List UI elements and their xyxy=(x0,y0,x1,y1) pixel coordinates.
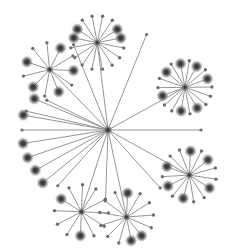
cluster-leaf-large xyxy=(122,187,134,198)
leaf-node xyxy=(20,128,23,131)
cluster-leaf xyxy=(202,196,205,199)
cluster-leaf xyxy=(31,47,34,50)
cluster-leaf xyxy=(81,18,84,21)
leaf-node xyxy=(45,99,48,102)
edge-cluster-leaf xyxy=(23,70,49,77)
cluster-leaf xyxy=(103,225,106,228)
cluster-leaf-large xyxy=(204,182,216,193)
cluster-leaf xyxy=(56,223,59,226)
cluster-leaf-large xyxy=(75,230,87,241)
cluster-leaf xyxy=(150,226,153,229)
cluster-leaf xyxy=(214,177,217,180)
cluster-leaf xyxy=(117,241,120,244)
cluster-leaf xyxy=(113,191,116,194)
edge-root-leaf xyxy=(26,111,108,130)
cluster-leaf xyxy=(156,86,159,89)
cluster-leaf xyxy=(200,149,203,152)
radial-tree-diagram xyxy=(0,0,234,248)
cluster-leaf xyxy=(71,54,74,57)
cluster-leaf xyxy=(122,46,125,49)
cluster-leaf xyxy=(118,56,121,59)
edge-root-leaf xyxy=(108,130,160,188)
edge-root-leaf xyxy=(108,35,147,130)
cluster-leaf xyxy=(53,209,56,212)
cluster-leaf xyxy=(161,175,164,178)
cluster-leaf-large xyxy=(191,102,203,113)
cluster-leaf xyxy=(70,83,73,86)
cluster-leaf xyxy=(43,94,46,97)
edge-root-leaf xyxy=(47,100,108,130)
cluster-leaf-large xyxy=(177,193,189,204)
cluster-leaf xyxy=(90,67,93,70)
cluster-leaf xyxy=(170,109,173,112)
edge-cluster-leaf xyxy=(127,215,154,217)
cluster-leaf xyxy=(158,77,161,80)
edges-layer xyxy=(22,16,216,243)
edge-root-cluster xyxy=(108,130,127,217)
cluster-leaf-large xyxy=(55,42,67,53)
leaf-node-large xyxy=(29,93,41,104)
cluster-leaf-large xyxy=(175,105,187,116)
leaf-node-large xyxy=(22,152,34,163)
leaf-node xyxy=(159,186,162,189)
cluster-leaf xyxy=(192,200,195,203)
cluster-leaf-large xyxy=(157,90,169,101)
leaf-node xyxy=(199,128,202,131)
cluster-leaf xyxy=(90,14,93,17)
cluster-leaf xyxy=(81,63,84,66)
edge-cluster-leaf xyxy=(54,211,81,212)
edge-cluster-leaf xyxy=(81,212,108,213)
cluster-hub-node xyxy=(78,208,85,215)
edge-root-leaf xyxy=(106,130,108,200)
cluster-leaf xyxy=(111,19,114,22)
cluster-leaf xyxy=(209,95,212,98)
cluster-leaf xyxy=(69,46,72,49)
cluster-leaf xyxy=(168,154,171,157)
leaf-node-large xyxy=(30,165,42,176)
cluster-leaf xyxy=(152,213,155,216)
cluster-hub-node xyxy=(94,39,101,46)
cluster-leaf-large xyxy=(21,56,33,67)
cluster-leaf xyxy=(107,211,110,214)
cluster-leaf-large xyxy=(185,145,197,156)
edge-cluster-leaf xyxy=(127,217,152,228)
edge-cluster-leaf xyxy=(127,203,150,217)
cluster-leaf xyxy=(81,183,84,186)
cluster-leaf-large xyxy=(202,73,214,84)
cluster-leaf-large xyxy=(202,154,214,165)
edge-root-cluster xyxy=(108,130,189,175)
cluster-leaf xyxy=(103,199,106,202)
cluster-leaf-large xyxy=(136,230,148,241)
cluster-leaf xyxy=(99,224,102,227)
edge-root-leaf xyxy=(43,130,108,183)
edge-cluster-leaf xyxy=(100,213,127,217)
cluster-leaf-large xyxy=(55,193,67,204)
cluster-leaf xyxy=(163,103,166,106)
leaf-node xyxy=(56,184,59,187)
cluster-leaf xyxy=(148,201,151,204)
cluster-leaf-large xyxy=(161,66,173,77)
cluster-leaf-large xyxy=(162,180,174,191)
cluster-leaf xyxy=(92,234,95,237)
edge-cluster-leaf xyxy=(159,78,184,87)
cluster-leaf-large xyxy=(191,61,203,72)
cluster-leaf xyxy=(94,187,97,190)
cluster-leaf-large xyxy=(68,65,80,76)
edge-cluster-leaf xyxy=(47,43,50,70)
cluster-leaf xyxy=(106,235,109,238)
cluster-leaf xyxy=(101,14,104,17)
cluster-leaf-large xyxy=(161,161,173,172)
leaf-node xyxy=(145,33,148,36)
cluster-leaf xyxy=(204,68,207,71)
cluster-leaf xyxy=(178,148,181,151)
cluster-leaf xyxy=(171,194,174,197)
cluster-leaf xyxy=(210,85,213,88)
cluster-leaf xyxy=(214,166,217,169)
cluster-leaf xyxy=(188,59,191,62)
cluster-leaf-large xyxy=(175,58,187,69)
cluster-leaf xyxy=(188,112,191,115)
cluster-leaf xyxy=(204,103,207,106)
cluster-leaf xyxy=(67,186,70,189)
cluster-leaf xyxy=(98,211,101,214)
edge-cluster-leaf xyxy=(185,87,210,96)
